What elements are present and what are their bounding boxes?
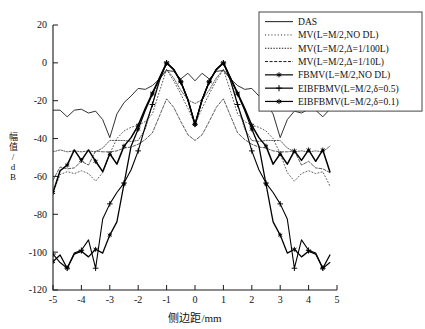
legend-label-3: MV(L=M/2,Δ=1/10L) <box>298 56 384 68</box>
y-axis-tick-label: -100 <box>29 247 47 258</box>
legend-label-5: EIBFBMV(L=M/2,δ=0.5) <box>298 83 399 95</box>
legend-label-0: DAS <box>298 16 317 27</box>
y-axis-title-char-0: 幅 <box>6 132 20 142</box>
x-axis-tick-label: -5 <box>49 294 57 305</box>
y-axis-tick-label: -60 <box>34 171 47 182</box>
x-axis-tick-label: -2 <box>134 294 142 305</box>
x-axis-tick-label: 4 <box>306 294 311 305</box>
x-axis-tick-label: 2 <box>249 294 254 305</box>
y-axis-tick-label: 0 <box>42 57 47 68</box>
x-axis-tick-label: 0 <box>193 294 198 305</box>
x-axis-tick-label: -1 <box>162 294 170 305</box>
y-axis-tick-label: -20 <box>34 95 47 106</box>
legend-label-2: MV(L=M/2,Δ=1/100L) <box>298 43 389 55</box>
x-axis-tick-label: -4 <box>77 294 85 305</box>
x-axis-tick-label: 5 <box>335 294 340 305</box>
y-axis-title-char-3: d <box>6 162 20 172</box>
y-axis-title: 幅 值 / d B <box>6 132 20 182</box>
legend-label-1: MV(L=M/2,NO DL) <box>298 29 379 41</box>
x-axis-title: 侧边距/mm <box>168 312 222 324</box>
chart-figure: 200-20-40-60-80-100-120-5-4-3-2-1012345侧… <box>0 0 425 329</box>
y-axis-tick-label: -120 <box>29 284 47 295</box>
legend-label-6: EIBFBMV(L=M/2,δ=0.1) <box>298 96 399 108</box>
chart-legend: DASMV(L=M/2,NO DL)MV(L=M/2,Δ=1/100L)MV(L… <box>259 12 422 111</box>
y-axis-tick-label: 20 <box>37 19 47 30</box>
legend-label-4: FBMV(L=M/2,NO DL) <box>298 69 390 81</box>
beam-pattern-chart: 200-20-40-60-80-100-120-5-4-3-2-1012345侧… <box>0 0 425 329</box>
y-axis-title-char-4: B <box>6 172 20 182</box>
x-axis-tick-label: 3 <box>278 294 283 305</box>
x-axis-tick-label: 1 <box>221 294 226 305</box>
y-axis-tick-label: -40 <box>34 133 47 144</box>
y-axis-tick-label: -80 <box>34 209 47 220</box>
y-axis-title-char-1: 值 <box>6 142 20 152</box>
x-axis-tick-label: -3 <box>106 294 114 305</box>
y-axis-title-char-2: / <box>6 152 20 162</box>
